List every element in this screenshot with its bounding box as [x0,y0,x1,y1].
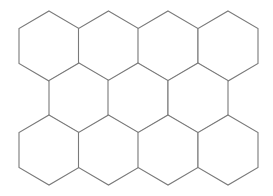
hexagon-grid-diagram [0,0,273,196]
